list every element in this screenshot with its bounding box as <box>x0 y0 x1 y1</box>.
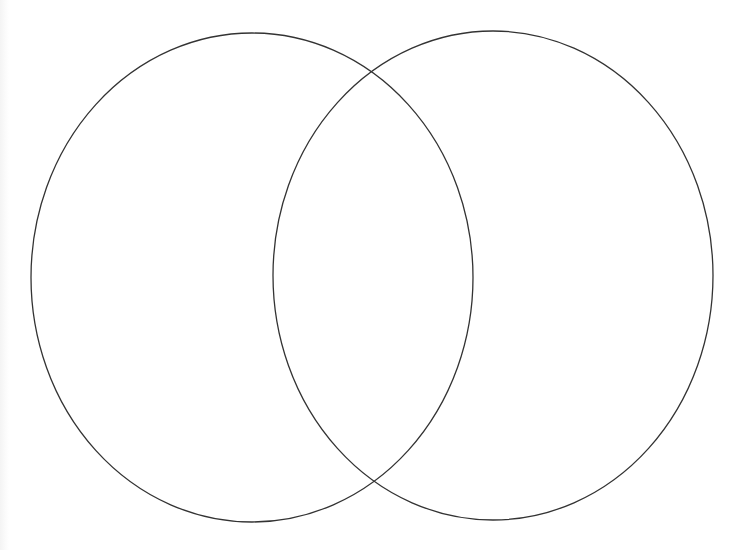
venn-worksheet-page <box>0 0 745 550</box>
left-set-ellipse <box>31 33 473 522</box>
right-set-ellipse <box>273 31 713 520</box>
venn-diagram <box>0 0 745 550</box>
